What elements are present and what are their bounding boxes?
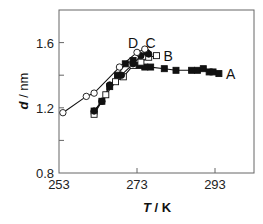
- data-point-A: [173, 67, 179, 73]
- series-label-C: C: [146, 35, 156, 51]
- data-point-A: [161, 66, 167, 72]
- series-label-D: D: [128, 35, 138, 51]
- data-point-D: [91, 90, 97, 96]
- data-point-C: [91, 108, 97, 114]
- chart-canvas: 2532732930.81.21.6 ABCD T / K d / nm: [0, 0, 263, 224]
- data-point-A: [194, 67, 200, 73]
- y-tick-label: 1.2: [36, 101, 54, 116]
- x-tick-label: 273: [126, 177, 148, 192]
- data-point-C: [107, 82, 113, 88]
- data-point-D: [116, 64, 122, 70]
- data-point-C: [99, 98, 105, 104]
- data-point-D: [83, 93, 89, 99]
- data-point-B: [113, 79, 119, 85]
- x-axis-title: T / K: [143, 200, 172, 215]
- series-markers: [60, 46, 222, 117]
- series-label-B: B: [164, 48, 173, 64]
- y-tick-label: 1.6: [36, 36, 54, 51]
- y-axis-title: d / nm: [16, 73, 31, 110]
- data-point-A: [189, 67, 195, 73]
- data-point-A: [148, 64, 154, 70]
- data-point-A: [210, 69, 216, 75]
- data-point-A: [200, 66, 206, 72]
- y-tick-label: 0.8: [36, 166, 54, 181]
- data-point-B: [154, 53, 160, 59]
- data-point-D: [60, 109, 66, 115]
- data-point-C: [130, 61, 136, 67]
- plot-frame: [59, 10, 254, 173]
- data-point-B: [138, 59, 144, 65]
- x-tick-label: 293: [204, 177, 226, 192]
- series-label-A: A: [226, 66, 236, 82]
- data-point-A: [216, 71, 222, 77]
- data-point-A: [122, 61, 128, 67]
- data-point-B: [103, 92, 109, 98]
- data-point-C: [118, 72, 124, 78]
